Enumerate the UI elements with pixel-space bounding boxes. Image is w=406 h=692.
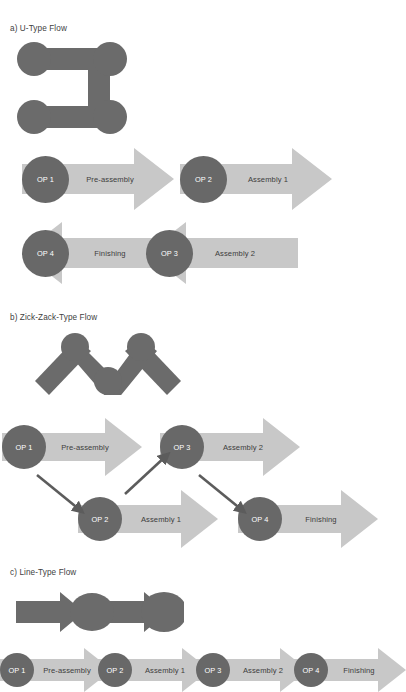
station-label: OP 4	[251, 515, 268, 524]
station-label: OP 2	[91, 515, 108, 524]
station-label: OP 2	[195, 175, 212, 184]
u-shape-layout-icon	[14, 42, 134, 138]
station-circle-zigzag-op1[interactable]: OP 1	[2, 425, 46, 469]
process-label-zigzag-op2: Assembly 1	[122, 497, 200, 541]
station-label: OP 1	[15, 443, 32, 452]
station-label: OP 1	[8, 666, 25, 675]
process-label-line-op3: Assembly 2	[230, 653, 296, 687]
stage-line-op3[interactable]: OP 3 Assembly 2	[196, 648, 308, 692]
process-label-zigzag-op4: Finishing	[282, 497, 360, 541]
station-label: OP 4	[302, 666, 319, 675]
zigzag-layout-icon	[33, 333, 183, 399]
section-title-zick-zack-type: b) Zick-Zack-Type Flow	[10, 313, 97, 322]
stage-zigzag-op1[interactable]: OP 1 Pre-assembly	[2, 418, 142, 476]
station-circle-u-op2[interactable]: OP 2	[180, 156, 227, 203]
station-label: OP 3	[161, 249, 178, 258]
process-label-line-op4: Finishing	[328, 653, 390, 687]
process-label-line-op2: Assembly 1	[132, 653, 198, 687]
stage-u-op3[interactable]: OP 3 Assembly 2	[146, 222, 298, 284]
station-label: OP 4	[37, 249, 54, 258]
station-circle-u-op1[interactable]: OP 1	[22, 156, 69, 203]
stage-line-op2[interactable]: OP 2 Assembly 1	[98, 648, 210, 692]
station-circle-u-op4[interactable]: OP 4	[22, 230, 69, 277]
process-label-u-op1: Pre-assembly	[69, 156, 151, 203]
stage-u-op1[interactable]: OP 1 Pre-assembly	[22, 148, 174, 210]
connector-arrow-op3-op4	[196, 472, 254, 524]
process-label-zigzag-op1: Pre-assembly	[46, 425, 124, 469]
process-label-zigzag-op3: Assembly 2	[204, 425, 282, 469]
station-circle-line-op4[interactable]: OP 4	[294, 653, 328, 687]
station-label: OP 2	[106, 666, 123, 675]
stage-zigzag-op4[interactable]: OP 4 Finishing	[238, 490, 378, 548]
station-circle-line-op2[interactable]: OP 2	[98, 653, 132, 687]
process-label-u-op4: Finishing	[69, 230, 151, 277]
station-circle-line-op1[interactable]: OP 1	[0, 653, 34, 687]
stage-line-op1[interactable]: OP 1 Pre-assembly	[0, 648, 112, 692]
stage-line-op4[interactable]: OP 4 Finishing	[294, 648, 406, 692]
connector-arrow-op1-op2	[34, 472, 92, 524]
station-circle-u-op3[interactable]: OP 3	[146, 230, 193, 277]
section-title-line-type: c) Line-Type Flow	[10, 568, 76, 577]
stage-zigzag-op3[interactable]: OP 3 Assembly 2	[160, 418, 300, 476]
station-label: OP 1	[37, 175, 54, 184]
station-circle-line-op3[interactable]: OP 3	[196, 653, 230, 687]
process-label-line-op1: Pre-assembly	[34, 653, 100, 687]
process-label-u-op2: Assembly 1	[227, 156, 309, 203]
line-layout-icon	[16, 590, 184, 638]
process-label-u-op3: Assembly 2	[193, 230, 277, 277]
connector-arrow-op2-op3	[122, 450, 178, 502]
section-title-u-type: a) U-Type Flow	[10, 24, 67, 33]
stage-u-op2[interactable]: OP 2 Assembly 1	[180, 148, 332, 210]
station-label: OP 3	[204, 666, 221, 675]
